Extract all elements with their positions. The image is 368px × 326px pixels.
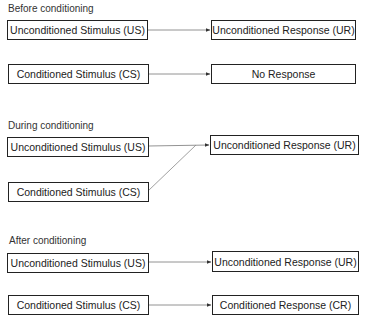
box-during-us: Unconditioned Stimulus (US)	[7, 137, 149, 157]
box-during-cs: Conditioned Stimulus (CS)	[8, 182, 149, 202]
section-title-during: During conditioning	[8, 120, 94, 131]
arrow-during-us-ur	[148, 145, 209, 146]
arrow-during-cs-ur	[148, 145, 196, 191]
box-before-no-response: No Response	[211, 64, 356, 84]
box-after-cr: Conditioned Response (CR)	[212, 295, 359, 315]
box-after-us: Unconditioned Stimulus (US)	[7, 253, 149, 273]
section-title-before: Before conditioning	[8, 3, 94, 14]
box-after-ur: Unconditioned Response (UR)	[212, 251, 359, 272]
box-before-cs: Conditioned Stimulus (CS)	[8, 64, 149, 84]
box-during-ur: Unconditioned Response (UR)	[210, 135, 359, 155]
box-after-cs: Conditioned Stimulus (CS)	[8, 295, 149, 315]
box-before-us: Unconditioned Stimulus (US)	[7, 20, 148, 40]
section-title-after: After conditioning	[9, 235, 86, 246]
arrows-layer	[0, 0, 368, 326]
box-before-ur: Unconditioned Response (UR)	[211, 20, 356, 40]
